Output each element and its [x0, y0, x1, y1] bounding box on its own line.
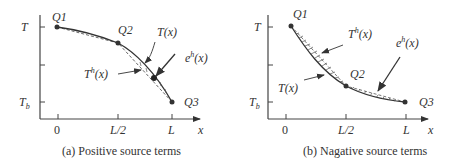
x-tick-L: L [167, 123, 175, 137]
point-q3 [403, 100, 408, 105]
label-q3: Q3 [419, 95, 434, 109]
point-q1 [55, 25, 60, 30]
figure: T Tb 0 L/2 L x Q1 Q2 Q3 T(x) Th(x) [0, 0, 452, 167]
y-tick-T: T [254, 20, 262, 34]
label-approx-curve: Th(x) [84, 66, 108, 81]
label-approx-curve: Th(x) [348, 26, 372, 41]
x-tick-0: 0 [282, 123, 288, 137]
label-q1: Q1 [52, 10, 67, 24]
panel-a: T Tb 0 L/2 L x Q1 Q2 Q3 T(x) Th(x) [19, 10, 208, 158]
label-q1: Q1 [293, 7, 308, 21]
point-q2 [344, 84, 349, 89]
label-error: eh(x) [396, 35, 419, 50]
point-q1 [289, 24, 294, 29]
caption-a: (a) Positive source terms [62, 144, 181, 158]
label-q3: Q3 [184, 95, 199, 109]
y-tick-T: T [21, 20, 29, 34]
x-tick-0: 0 [54, 123, 60, 137]
x-axis-label: x [427, 123, 434, 137]
x-tick-L: L [402, 123, 410, 137]
caption-b: (b) Nagative source terms [303, 144, 428, 158]
label-q2: Q2 [350, 67, 365, 81]
y-tick-Tb: Tb [19, 95, 30, 111]
y-tick-Tb: Tb [249, 95, 260, 111]
error-hatching [296, 33, 396, 101]
panel-b: T Tb 0 L/2 L x [249, 7, 434, 158]
x-axis-label: x [197, 123, 204, 137]
label-q2: Q2 [118, 23, 133, 37]
x-tick-half-L: L/2 [109, 123, 126, 137]
point-q2 [116, 41, 121, 46]
x-tick-half-L: L/2 [337, 123, 354, 137]
exact-curve [57, 27, 172, 102]
label-exact-curve: T(x) [278, 81, 298, 95]
label-error: eh(x) [185, 50, 208, 65]
point-q3 [170, 100, 175, 105]
approx-curve [57, 27, 172, 102]
label-exact-curve: T(x) [157, 25, 177, 39]
